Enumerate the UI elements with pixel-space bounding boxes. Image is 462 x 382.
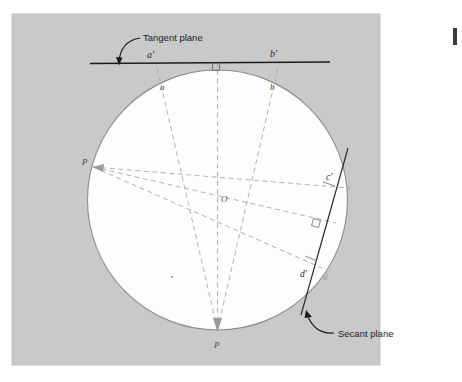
label-a: a: [160, 82, 165, 92]
secant-plane-label: Secant plane: [338, 328, 393, 339]
label-p-bottom: P: [213, 340, 220, 350]
figure-container: Tangent plane Secant plane a' b' a b c' …: [0, 0, 462, 382]
label-p-left: P: [81, 157, 88, 167]
label-b: b: [270, 82, 275, 92]
label-c-prime: c': [326, 172, 333, 182]
label-b-prime: b': [270, 48, 278, 59]
label-a-prime: a': [147, 49, 155, 60]
label-d: d: [323, 272, 328, 282]
label-d-prime: d': [300, 269, 308, 279]
stray-dot: [171, 276, 173, 278]
right-margin-mark: [453, 28, 457, 45]
geometry-diagram: Tangent plane Secant plane a' b' a b c' …: [0, 0, 462, 382]
label-c: c: [348, 182, 352, 192]
tangent-plane-label: Tangent plane: [143, 32, 203, 43]
label-center-o: O: [221, 194, 228, 204]
